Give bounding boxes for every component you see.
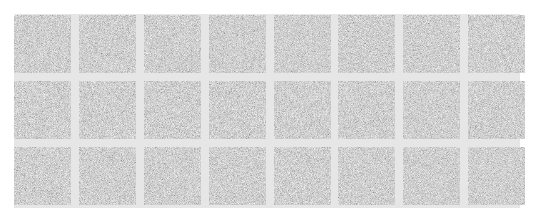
- noise-tile: [338, 147, 395, 205]
- noise-tile: [14, 81, 71, 139]
- noise-tile: [79, 81, 136, 139]
- noise-tile: [209, 81, 266, 139]
- noise-texture: [468, 15, 525, 73]
- noise-texture: [79, 147, 136, 205]
- noise-tile: [403, 147, 460, 205]
- noise-texture: [338, 15, 395, 73]
- noise-tile: [468, 15, 525, 73]
- noise-tile: [338, 81, 395, 139]
- noise-texture: [468, 81, 525, 139]
- noise-texture: [14, 147, 71, 205]
- noise-tile: [403, 15, 460, 73]
- noise-tile: [468, 81, 525, 139]
- noise-texture: [274, 81, 331, 139]
- noise-texture: [144, 147, 201, 205]
- noise-tile: [403, 81, 460, 139]
- noise-tile-canvas: [0, 0, 534, 222]
- noise-texture: [403, 15, 460, 73]
- noise-texture: [79, 81, 136, 139]
- noise-tile: [274, 15, 331, 73]
- noise-texture: [79, 15, 136, 73]
- noise-tile: [144, 15, 201, 73]
- tile-grid: [14, 15, 525, 205]
- noise-texture: [274, 147, 331, 205]
- noise-tile: [79, 147, 136, 205]
- noise-texture: [209, 15, 266, 73]
- noise-tile: [14, 15, 71, 73]
- noise-tile: [209, 147, 266, 205]
- noise-tile: [338, 15, 395, 73]
- noise-texture: [144, 81, 201, 139]
- noise-texture: [338, 81, 395, 139]
- noise-texture: [209, 147, 266, 205]
- noise-texture: [403, 81, 460, 139]
- noise-texture: [274, 15, 331, 73]
- noise-tile: [468, 147, 525, 205]
- noise-tile: [274, 81, 331, 139]
- noise-tile: [79, 15, 136, 73]
- noise-tile: [14, 147, 71, 205]
- noise-texture: [468, 147, 525, 205]
- noise-texture: [144, 15, 201, 73]
- noise-texture: [338, 147, 395, 205]
- noise-tile: [209, 15, 266, 73]
- noise-texture: [209, 81, 266, 139]
- noise-tile: [274, 147, 331, 205]
- noise-texture: [14, 15, 71, 73]
- noise-tile: [144, 81, 201, 139]
- noise-texture: [14, 81, 71, 139]
- noise-texture: [403, 147, 460, 205]
- noise-tile: [144, 147, 201, 205]
